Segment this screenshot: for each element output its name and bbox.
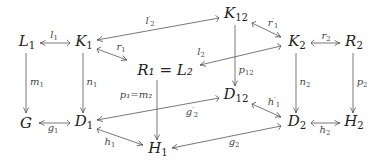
label-g1: g1 — [48, 123, 59, 135]
label-r1: r1 — [116, 42, 125, 54]
arrows-layer — [0, 0, 384, 163]
label-r2: r2 — [321, 31, 330, 43]
label-r1-prime: r′1 — [268, 18, 279, 30]
arrow-g2 — [172, 126, 281, 148]
node-H2: H2 — [344, 114, 364, 131]
node-D2: D2 — [288, 114, 307, 131]
node-K1: K1 — [75, 34, 93, 51]
node-K12: K12 — [224, 6, 248, 23]
label-n1: n1 — [87, 77, 98, 89]
node-R1-equals-L2: R₁ = L₂ — [137, 63, 192, 78]
arrow-l2 — [200, 46, 281, 65]
node-D1: D1 — [75, 114, 94, 131]
label-m1: m1 — [30, 77, 44, 89]
label-l2: l2 — [197, 47, 205, 59]
node-D12: D12 — [224, 87, 249, 104]
node-G: G — [20, 116, 32, 131]
label-l2-prime: l′2 — [145, 16, 154, 28]
label-h1-prime: h′1 — [268, 97, 280, 109]
node-L1: L1 — [19, 34, 35, 51]
node-R2: R2 — [345, 34, 363, 51]
node-K2: K2 — [288, 34, 306, 51]
label-l1: l1 — [50, 30, 58, 42]
label-g2-prime: g′2 — [186, 107, 198, 119]
commutative-diagram: L1 K1 R₁ = L₂ K12 K2 R2 G D1 D12 D2 H2 H… — [0, 0, 384, 163]
label-p1-equals-m2: p₁=m₂ — [120, 90, 152, 100]
arrow-l2-prime — [97, 18, 219, 40]
label-n2: n2 — [300, 77, 311, 89]
label-p12: p12 — [238, 65, 253, 77]
label-h2: h2 — [320, 125, 331, 137]
label-h1: h1 — [105, 137, 116, 149]
node-H1: H1 — [148, 141, 168, 158]
label-g2: g2 — [229, 137, 240, 149]
label-p2: p2 — [357, 77, 368, 89]
arrow-g2-prime — [97, 98, 219, 120]
